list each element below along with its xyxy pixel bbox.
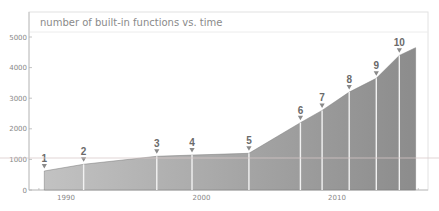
x-tick-label: 2010 — [328, 194, 346, 202]
marker-triangle-icon — [189, 148, 194, 153]
marker-triangle-icon — [347, 85, 352, 90]
marker-triangle-icon — [42, 164, 47, 169]
version-marker-label: 10 — [394, 37, 406, 48]
version-marker-label: 2 — [81, 146, 87, 157]
marker-triangle-icon — [154, 149, 159, 154]
version-marker-label: 4 — [189, 137, 195, 148]
y-tick-label: 2000 — [9, 125, 27, 133]
y-tick-label: 1000 — [9, 156, 27, 164]
y-tick-label: 3000 — [9, 95, 27, 103]
y-tick-label: 5000 — [9, 34, 27, 42]
marker-triangle-icon — [298, 116, 303, 121]
x-tick-label: 2000 — [193, 194, 211, 202]
version-marker-label: 5 — [246, 135, 252, 146]
y-tick-label: 0 — [23, 187, 27, 195]
x-tick-label: 1990 — [57, 194, 75, 202]
version-marker-label: 7 — [319, 92, 325, 103]
version-marker-label: 8 — [346, 74, 352, 85]
version-marker-label: 3 — [154, 138, 160, 149]
y-tick-label: 4000 — [9, 64, 27, 72]
chart-title: number of built-in functions vs. time — [40, 17, 222, 28]
chart: number of built-in functions vs. time 01… — [0, 0, 439, 211]
version-marker-label: 9 — [374, 60, 380, 71]
marker-triangle-icon — [374, 71, 379, 76]
version-marker-label: 6 — [298, 105, 304, 116]
marker-triangle-icon — [246, 146, 251, 151]
marker-triangle-icon — [319, 103, 324, 108]
marker-triangle-icon — [397, 48, 402, 53]
area-series — [44, 48, 415, 190]
